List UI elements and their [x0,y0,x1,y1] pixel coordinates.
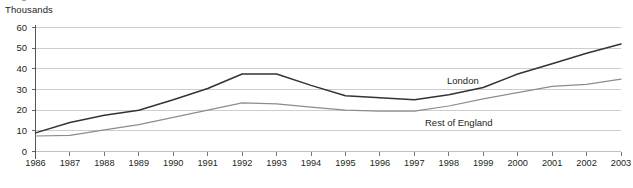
x-tick-label: 1992 [232,158,252,168]
x-tick-label: 1996 [370,158,390,168]
y-tick-label: 20 [5,104,27,115]
x-tick-label: 1989 [129,158,149,168]
x-tick-label: 1987 [60,158,80,168]
x-tick-label: 1990 [163,158,183,168]
y-tick-label: 40 [5,63,27,74]
series-lines-group [36,44,622,136]
x-tick-label: 1994 [301,158,321,168]
x-tick-label: 2003 [611,158,631,168]
x-tick-label: 1999 [473,158,493,168]
y-tick-label: 10 [5,125,27,136]
y-tick-label: 60 [5,22,27,33]
y-axis [32,25,622,159]
x-tick-label: 2001 [542,158,562,168]
series-line [36,44,622,133]
x-tick-label: 2000 [507,158,527,168]
x-tick-label: 1991 [197,158,217,168]
x-tick-label: 1998 [439,158,459,168]
x-tick-label: 1993 [266,158,286,168]
line-chart: Thousands 0102030405060 1986198719881989… [0,0,633,188]
y-tick-label: 0 [5,146,27,157]
x-tick-label: 1997 [404,158,424,168]
x-tick-label: 1988 [94,158,114,168]
series-annotation-label: London [447,75,479,86]
y-tick-label: 30 [5,84,27,95]
series-annotation-label: Rest of England [425,117,493,128]
x-tick-label: 1986 [25,158,45,168]
x-tick-label: 1995 [335,158,355,168]
series-line [36,79,622,136]
x-tick-label: 2002 [576,158,596,168]
y-tick-label: 50 [5,42,27,53]
